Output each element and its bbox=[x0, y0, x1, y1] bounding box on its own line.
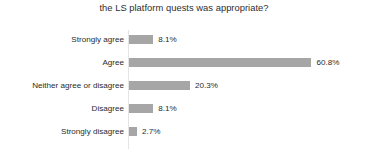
bar-disagree bbox=[129, 104, 153, 113]
bar-agree bbox=[129, 58, 311, 67]
category-label: Neither agree or disagree bbox=[0, 74, 124, 97]
category-label: Strongly disagree bbox=[0, 120, 124, 143]
bar-track: 20.3% bbox=[129, 74, 368, 97]
bar-track: 2.7% bbox=[129, 120, 368, 143]
bar-row: Disagree 8.1% bbox=[0, 97, 368, 120]
bar-row: Strongly disagree 2.7% bbox=[0, 120, 368, 143]
bar-track: 8.1% bbox=[129, 97, 368, 120]
bar-row: Neither agree or disagree 20.3% bbox=[0, 74, 368, 97]
bar-value-label: 60.8% bbox=[316, 51, 339, 74]
bar-chart: the LS platform quests was appropriate? … bbox=[0, 0, 368, 159]
category-label: Strongly agree bbox=[0, 28, 124, 51]
bar-value-label: 20.3% bbox=[195, 74, 218, 97]
bar-strongly-disagree bbox=[129, 127, 137, 136]
bar-value-label: 2.7% bbox=[142, 120, 160, 143]
bar-track: 8.1% bbox=[129, 28, 368, 51]
chart-title: the LS platform quests was appropriate? bbox=[0, 1, 368, 14]
bar-strongly-agree bbox=[129, 35, 153, 44]
bar-value-label: 8.1% bbox=[158, 28, 176, 51]
bar-row: Agree 60.8% bbox=[0, 51, 368, 74]
plot-area: Strongly agree 8.1% Agree 60.8% Neither … bbox=[0, 28, 368, 153]
category-label: Agree bbox=[0, 51, 124, 74]
bar-neither-agree-or-disagree bbox=[129, 81, 190, 90]
category-label: Disagree bbox=[0, 97, 124, 120]
bar-track: 60.8% bbox=[129, 51, 368, 74]
bar-row: Strongly agree 8.1% bbox=[0, 28, 368, 51]
bar-value-label: 8.1% bbox=[158, 97, 176, 120]
